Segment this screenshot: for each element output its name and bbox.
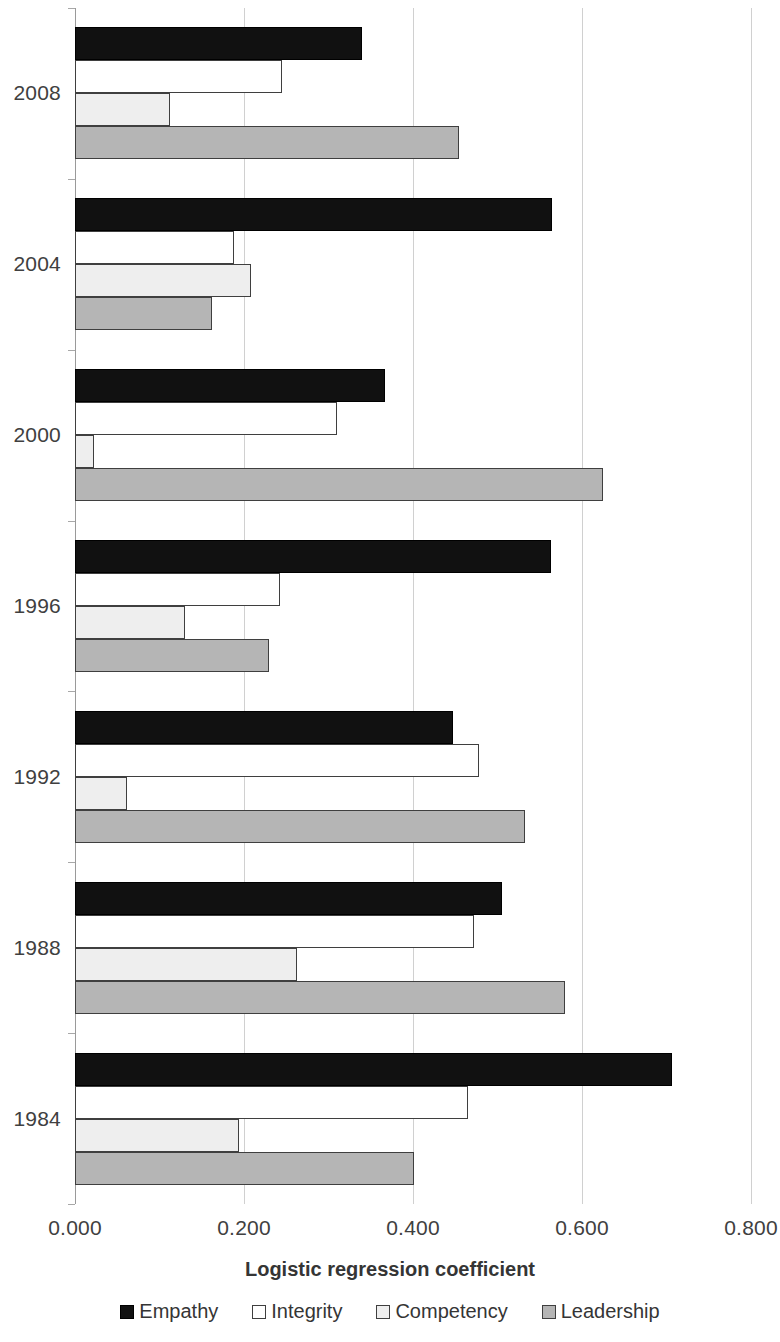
bar-competency-2000 — [75, 435, 94, 468]
legend-label: Empathy — [139, 1300, 218, 1323]
legend-label: Integrity — [271, 1300, 342, 1323]
bar-empathy-2004 — [75, 198, 552, 231]
x-tick-label-0.000: 0.000 — [48, 1216, 102, 1240]
bar-leadership-2000 — [75, 468, 603, 501]
leadership-swatch-icon — [542, 1305, 556, 1319]
legend-label: Competency — [395, 1300, 507, 1323]
y-tick-mark — [68, 521, 75, 522]
bar-competency-1996 — [75, 606, 185, 639]
bar-competency-1992 — [75, 777, 127, 810]
bar-group-1988 — [75, 862, 751, 1033]
bar-group-1996 — [75, 521, 751, 692]
y-tick-mark — [68, 350, 75, 351]
y-tick-label-2004: 2004 — [13, 252, 61, 276]
y-tick-mark — [68, 179, 75, 180]
bar-empathy-1984 — [75, 1053, 672, 1086]
bar-leadership-2004 — [75, 297, 212, 330]
bar-competency-1984 — [75, 1119, 239, 1152]
bar-integrity-2008 — [75, 60, 282, 93]
bar-leadership-1988 — [75, 981, 565, 1014]
legend-item-leadership[interactable]: Leadership — [542, 1300, 660, 1323]
bar-competency-1988 — [75, 948, 297, 981]
legend-item-competency[interactable]: Competency — [376, 1300, 507, 1323]
y-tick-label-1984: 1984 — [13, 1107, 61, 1131]
gridline-0.800 — [751, 8, 752, 1204]
y-tick-label-2008: 2008 — [13, 81, 61, 105]
bar-leadership-1984 — [75, 1152, 414, 1185]
bar-integrity-2004 — [75, 231, 234, 264]
bar-group-1992 — [75, 691, 751, 862]
legend-item-empathy[interactable]: Empathy — [120, 1300, 218, 1323]
y-tick-label-2000: 2000 — [13, 423, 61, 447]
bar-integrity-1984 — [75, 1086, 468, 1119]
bar-empathy-1996 — [75, 540, 551, 573]
x-tick-label-0.600: 0.600 — [555, 1216, 609, 1240]
bar-empathy-1988 — [75, 882, 502, 915]
y-tick-mark — [68, 8, 75, 9]
bar-integrity-2000 — [75, 402, 337, 435]
bar-empathy-1992 — [75, 711, 453, 744]
bar-empathy-2008 — [75, 27, 362, 60]
bar-group-1984 — [75, 1033, 751, 1204]
bar-integrity-1988 — [75, 915, 474, 948]
x-tick-label-0.800: 0.800 — [724, 1216, 778, 1240]
bar-empathy-2000 — [75, 369, 385, 402]
x-tick-label-0.200: 0.200 — [217, 1216, 271, 1240]
bar-group-2000 — [75, 350, 751, 521]
y-tick-mark — [68, 862, 75, 863]
y-tick-label-1996: 1996 — [13, 594, 61, 618]
y-tick-label-1992: 1992 — [13, 765, 61, 789]
bar-competency-2008 — [75, 93, 170, 126]
x-axis-title: Logistic regression coefficient — [0, 1258, 780, 1281]
y-tick-label-1988: 1988 — [13, 936, 61, 960]
bar-leadership-1992 — [75, 810, 525, 843]
competency-swatch-icon — [376, 1305, 390, 1319]
integrity-swatch-icon — [252, 1305, 266, 1319]
x-tick-label-0.400: 0.400 — [386, 1216, 440, 1240]
empathy-swatch-icon — [120, 1305, 134, 1319]
plot-area — [75, 8, 751, 1204]
y-tick-mark — [68, 691, 75, 692]
bar-integrity-1996 — [75, 573, 280, 606]
bar-integrity-1992 — [75, 744, 479, 777]
chart-legend: EmpathyIntegrityCompetencyLeadership — [0, 1300, 780, 1323]
y-tick-mark — [68, 1204, 75, 1205]
y-tick-mark — [68, 1033, 75, 1034]
bar-chart: 2008200420001996199219881984 0.0000.2000… — [0, 0, 780, 1342]
bar-group-2004 — [75, 179, 751, 350]
legend-item-integrity[interactable]: Integrity — [252, 1300, 342, 1323]
y-axis: 2008200420001996199219881984 — [0, 8, 75, 1204]
legend-label: Leadership — [561, 1300, 660, 1323]
bar-leadership-1996 — [75, 639, 269, 672]
bar-group-2008 — [75, 8, 751, 179]
bar-competency-2004 — [75, 264, 251, 297]
bar-leadership-2008 — [75, 126, 459, 159]
x-axis-tick-labels: 0.0000.2000.4000.6000.800 — [0, 1216, 780, 1250]
